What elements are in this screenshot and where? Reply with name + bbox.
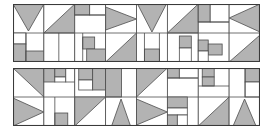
block-top-3 <box>75 4 106 62</box>
block-bottom-7 <box>198 68 229 126</box>
top-strip-canvas <box>13 4 260 62</box>
block-bottom-5 <box>137 68 168 126</box>
block-top-8 <box>229 4 260 62</box>
block-bottom-1 <box>13 68 44 126</box>
figure-root <box>0 0 274 135</box>
block-top-4 <box>106 4 137 62</box>
block-top-7 <box>198 4 229 62</box>
block-top-6 <box>167 4 198 62</box>
panel-top-strip <box>13 4 260 62</box>
bottom-strip-canvas <box>13 68 260 126</box>
block-bottom-8 <box>229 68 260 126</box>
block-top-2 <box>44 4 75 62</box>
panel-bottom-strip <box>13 68 260 126</box>
block-bottom-3 <box>75 68 106 126</box>
block-top-5 <box>137 4 168 62</box>
block-bottom-6 <box>167 68 198 126</box>
block-bottom-2 <box>44 68 75 126</box>
block-top-1 <box>13 4 44 62</box>
block-bottom-4 <box>106 68 137 126</box>
